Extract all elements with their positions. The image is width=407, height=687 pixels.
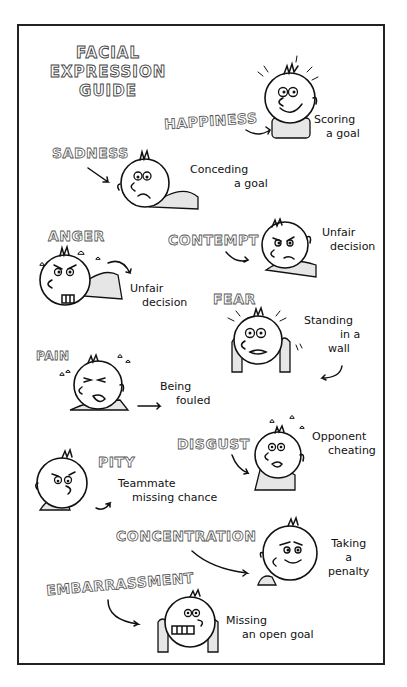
- caption-line: Conceding: [190, 163, 268, 177]
- pain-face-icon: [60, 355, 160, 411]
- caption-line: missing chance: [118, 491, 217, 505]
- caption-line: decision: [130, 296, 187, 310]
- label-pain: PAIN: [36, 349, 70, 363]
- caption-line: Taking: [328, 537, 369, 551]
- caption-embarrassment: Missing an open goal: [226, 614, 314, 642]
- caption-line: cheating: [312, 444, 376, 458]
- caption-line: wall: [304, 342, 360, 356]
- caption-pity: Teammate missing chance: [118, 477, 217, 505]
- caption-contempt: Unfair decision: [322, 226, 375, 254]
- caption-line: Scoring: [314, 113, 360, 127]
- caption-pain: Being fouled: [160, 380, 210, 408]
- caption-fear: Standing in a wall: [304, 314, 360, 356]
- label-sadness: SADNESS: [52, 145, 129, 161]
- label-contempt: CONTEMPT: [168, 232, 259, 248]
- caption-happiness: Scoring a goal: [314, 113, 360, 141]
- caption-anger: Unfair decision: [130, 282, 187, 310]
- caption-concentration: Taking a penalty: [328, 537, 369, 579]
- label-concentration: CONCENTRATION: [116, 528, 256, 544]
- label-disgust: DISGUST: [177, 436, 250, 452]
- caption-line: an open goal: [226, 628, 314, 642]
- caption-line: Missing: [226, 614, 314, 628]
- caption-line: decision: [322, 240, 375, 254]
- caption-line: Standing: [304, 314, 360, 328]
- label-anger: ANGER: [48, 228, 105, 244]
- caption-line: Unfair: [130, 282, 187, 296]
- caption-line: a goal: [314, 127, 360, 141]
- disgust-face-icon: [232, 416, 304, 491]
- contempt-face-icon: [226, 219, 316, 277]
- caption-disgust: Opponent cheating: [312, 430, 376, 458]
- caption-line: in a: [304, 328, 360, 342]
- caption-line: penalty: [328, 565, 369, 579]
- caption-sadness: Conceding a goal: [190, 163, 268, 191]
- caption-line: a goal: [190, 177, 268, 191]
- caption-line: Unfair: [322, 226, 375, 240]
- label-pity: PITY: [98, 454, 135, 470]
- caption-line: Teammate: [118, 477, 217, 491]
- caption-line: Being: [160, 380, 210, 394]
- caption-line: a: [328, 551, 369, 565]
- embarrassment-face-icon: [108, 590, 218, 652]
- anger-face-icon: [40, 247, 131, 305]
- caption-line: fouled: [160, 394, 210, 408]
- caption-line: Opponent: [312, 430, 376, 444]
- label-fear: FEAR: [213, 291, 256, 307]
